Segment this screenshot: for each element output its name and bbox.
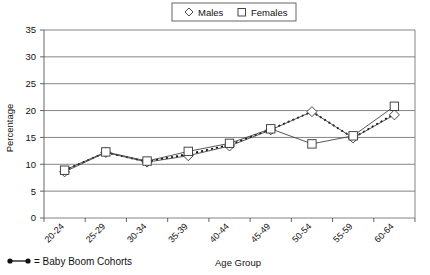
footnote-text: = Baby Boom Cohorts: [34, 256, 132, 267]
diamond-outline-icon: [307, 107, 317, 117]
x-axis-title: Age Group: [215, 257, 261, 268]
square-outline-icon: [267, 125, 275, 133]
square-outline-icon: [143, 157, 151, 165]
square-outline-icon: [225, 139, 233, 147]
square-outline-icon: [102, 148, 110, 156]
square-outline-icon: [308, 140, 316, 148]
series-line-females: [65, 106, 395, 170]
y-axis-ticks: [40, 30, 44, 218]
x-axis-tick-label: 40-44: [208, 221, 231, 244]
legend-label-males: Males: [198, 7, 224, 18]
square-outline-icon: [390, 102, 398, 110]
square-outline-icon: [238, 9, 246, 17]
footnote-dot-left: [7, 258, 12, 263]
y-axis-tick-label: 20: [25, 105, 36, 116]
data-series-group: [60, 102, 400, 177]
y-axis-tick-labels: 05101520253035: [25, 24, 36, 223]
x-axis-tick-label: 30-34: [125, 221, 148, 244]
gridlines: [44, 30, 415, 218]
footnote-dot-right: [25, 258, 30, 263]
diamond-outline-icon: [389, 110, 399, 120]
x-axis-tick-label: 55-59: [331, 221, 354, 244]
y-axis-tick-label: 25: [25, 78, 36, 89]
x-axis-tick-label: 60-64: [372, 221, 395, 244]
square-outline-icon: [60, 166, 68, 174]
x-axis-tick-label: 25-29: [84, 221, 107, 244]
y-axis-tick-label: 30: [25, 51, 36, 62]
chart-legend: Males Females: [172, 3, 296, 21]
y-axis-tick-label: 10: [25, 159, 36, 170]
square-outline-icon: [349, 132, 357, 140]
footnote: = Baby Boom Cohorts: [7, 256, 132, 267]
x-axis-tick-label: 50-54: [290, 221, 313, 244]
y-axis-title: Percentage: [4, 104, 15, 153]
legend-label-females: Females: [251, 7, 288, 18]
y-axis-tick-label: 0: [31, 212, 36, 223]
population-percentage-line-chart: 05101520253035 20-2425-2930-3435-3940-44…: [0, 0, 430, 275]
x-axis-tick-labels: 20-2425-2930-3435-3940-4445-4950-5455-59…: [43, 221, 396, 244]
x-axis-tick-label: 35-39: [166, 221, 189, 244]
chart-container: 05101520253035 20-2425-2930-3435-3940-44…: [0, 0, 430, 275]
y-axis-tick-label: 15: [25, 132, 36, 143]
x-axis-tick-label: 45-49: [249, 221, 272, 244]
square-outline-icon: [184, 147, 192, 155]
x-axis-tick-label: 20-24: [43, 221, 66, 244]
y-axis-tick-label: 5: [31, 186, 36, 197]
y-axis-tick-label: 35: [25, 24, 36, 35]
